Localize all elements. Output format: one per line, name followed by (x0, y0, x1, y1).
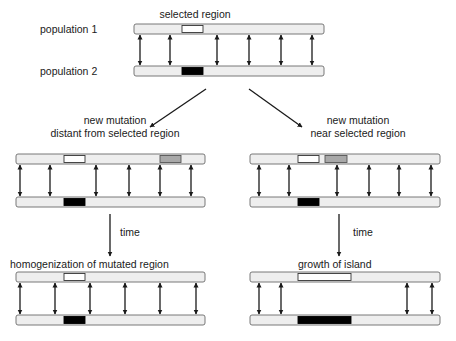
population-1-chromosome (134, 24, 324, 34)
branch-arrow-right-icon (249, 89, 302, 127)
selected-region-pop1 (182, 26, 203, 33)
homogenization-label: homogenization of mutated region (10, 258, 169, 270)
branch-arrow-left-icon (150, 89, 206, 127)
new-mutation (160, 156, 181, 163)
time-label-right: time (353, 226, 373, 238)
selected-region-pop2 (182, 68, 203, 75)
panel-distant-mutation (16, 154, 205, 207)
growth-of-island-label: growth of island (298, 258, 372, 270)
panel-island-growth (250, 272, 440, 325)
selected-region-pop1 (64, 274, 85, 281)
population-2-chromosome (134, 66, 324, 76)
panel-initial (134, 24, 324, 76)
near-mutation-label-line1: new mutation (327, 114, 390, 126)
panel-homogenization (16, 272, 205, 325)
population-1-label: population 1 (40, 23, 97, 35)
distant-mutation-label-line2: distant from selected region (51, 127, 180, 139)
selected-region-pop2 (298, 199, 319, 206)
panel-near-mutation (250, 154, 440, 207)
gene-flow-diagram: selected region population 1 population … (0, 0, 456, 341)
population-2-chromosome (250, 197, 440, 207)
population-2-chromosome (16, 315, 205, 325)
population-2-label: population 2 (40, 65, 97, 77)
selected-region-pop2 (64, 317, 85, 324)
selected-region-pop1 (298, 274, 351, 281)
time-label-left: time (120, 226, 140, 238)
population-1-chromosome (16, 272, 205, 282)
near-mutation-label-line2: near selected region (310, 127, 405, 139)
selected-region-pop1 (64, 156, 85, 163)
population-2-chromosome (16, 197, 205, 207)
selected-region-pop1 (298, 156, 319, 163)
new-mutation (325, 156, 347, 163)
selected-region-pop2 (64, 199, 85, 206)
selected-region-label: selected region (159, 8, 230, 20)
selected-region-pop2 (298, 317, 351, 324)
distant-mutation-label-line1: new mutation (84, 114, 147, 126)
